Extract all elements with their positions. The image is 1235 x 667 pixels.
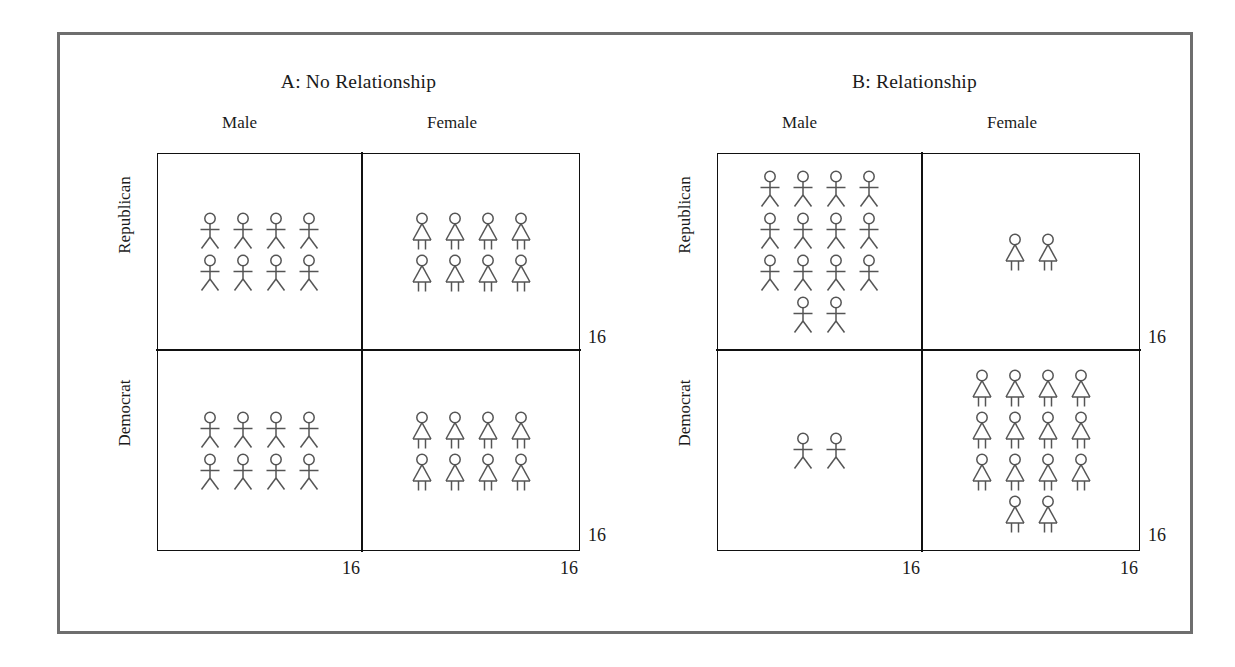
figure-row [757,211,882,251]
male-figure-icon [757,169,783,209]
male-figure-icon [230,253,256,293]
figure-row [409,452,534,492]
figure-row [409,253,534,293]
male-figure-icon [296,452,322,492]
female-figure-icon [1035,494,1061,534]
figure-row [197,253,322,293]
male-figure-icon [790,431,816,471]
female-figure-icon [1002,452,1028,492]
male-figure-icon [823,211,849,251]
female-figure-icon [1002,410,1028,450]
female-figure-icon [969,452,995,492]
female-figure-icon [475,410,501,450]
figure-row [969,368,1094,408]
table-cell-republican-female [921,154,1141,349]
panel-b: B: RelationshipMaleFemaleRepublicanDemoc… [640,35,1185,631]
male-figure-icon [823,295,849,335]
female-figure-icon [409,410,435,450]
female-figure-icon [1035,452,1061,492]
table-cell-republican-male [158,154,361,349]
male-figure-icon [757,211,783,251]
female-figure-icon [1002,232,1028,272]
female-figure-icon [1035,368,1061,408]
male-figure-icon [790,169,816,209]
figure-frame: A: No RelationshipMaleFemaleRepublicanDe… [57,32,1193,634]
male-figure-icon [856,169,882,209]
figure-group [790,431,849,471]
female-figure-icon [475,211,501,251]
figure-row [969,452,1094,492]
male-figure-icon [823,253,849,293]
male-figure-icon [296,211,322,251]
figure-row [1002,494,1061,534]
female-figure-icon [1068,452,1094,492]
column-header-male: Male [698,113,901,133]
row-total-democrat: 16 [588,525,606,546]
column-header-female: Female [901,113,1123,133]
male-figure-icon [197,410,223,450]
female-figure-icon [409,211,435,251]
panel-title: A: No Relationship [80,71,631,93]
figure-group [969,368,1094,534]
female-figure-icon [1035,232,1061,272]
figure-row [790,431,849,471]
male-figure-icon [856,253,882,293]
male-figure-icon [263,452,289,492]
male-figure-icon [263,211,289,251]
figure-row [757,169,882,209]
female-figure-icon [969,368,995,408]
figure-group [409,410,534,492]
male-figure-icon [296,410,322,450]
table-cell-democrat-male [158,349,361,552]
contingency-table [157,153,580,551]
female-figure-icon [1068,368,1094,408]
figure-row [197,410,322,450]
row-header-republican: Republican [115,117,135,313]
male-figure-icon [197,452,223,492]
figure-row [969,410,1094,450]
figure-row [790,295,849,335]
figure-row [197,452,322,492]
male-figure-icon [197,211,223,251]
female-figure-icon [508,452,534,492]
figure-group [757,169,882,335]
female-figure-icon [1035,410,1061,450]
column-header-male: Male [138,113,341,133]
female-figure-icon [442,452,468,492]
row-total-republican: 16 [1148,327,1166,348]
male-figure-icon [823,169,849,209]
figure-group [197,211,322,293]
female-figure-icon [508,253,534,293]
figure-group [1002,232,1061,272]
contingency-table [717,153,1140,551]
row-header-democrat: Democrat [115,315,135,511]
column-total-male: 16 [820,558,920,579]
table-cell-republican-female [361,154,581,349]
figure-row [409,211,534,251]
male-figure-icon [790,211,816,251]
table-cell-democrat-female [921,349,1141,552]
table-cell-democrat-male [718,349,921,552]
column-header-female: Female [341,113,563,133]
figure-row [409,410,534,450]
female-figure-icon [409,253,435,293]
table-cell-democrat-female [361,349,581,552]
row-total-democrat: 16 [1148,525,1166,546]
male-figure-icon [856,211,882,251]
male-figure-icon [296,253,322,293]
female-figure-icon [508,410,534,450]
female-figure-icon [442,410,468,450]
row-header-democrat: Democrat [675,315,695,511]
male-figure-icon [757,253,783,293]
female-figure-icon [442,253,468,293]
figure-group [409,211,534,293]
female-figure-icon [1068,410,1094,450]
figure-row [757,253,882,293]
male-figure-icon [230,452,256,492]
male-figure-icon [790,295,816,335]
male-figure-icon [230,211,256,251]
column-total-male: 16 [260,558,360,579]
table-cell-republican-male [718,154,921,349]
female-figure-icon [969,410,995,450]
panel-a: A: No RelationshipMaleFemaleRepublicanDe… [80,35,625,631]
